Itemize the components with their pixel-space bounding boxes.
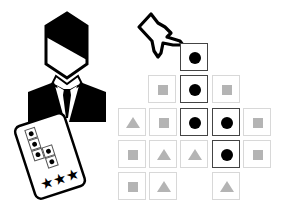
- square-icon: [128, 150, 138, 160]
- grid-cell-r4-c3[interactable]: [212, 172, 240, 200]
- grid-cell-r2-c2[interactable]: [180, 108, 208, 136]
- dot-icon: [189, 117, 201, 129]
- triangle-icon: [220, 181, 234, 192]
- square-icon: [253, 118, 263, 128]
- square-icon: [222, 85, 232, 95]
- grid-cell-r3-c1[interactable]: [149, 140, 177, 168]
- puzzle-illustration: ★★★: [0, 0, 287, 215]
- grid-cell-r4-c0[interactable]: [118, 172, 146, 200]
- square-icon: [158, 85, 168, 95]
- grid-cell-r4-c1[interactable]: [149, 172, 177, 200]
- grid-cell-r0-c2[interactable]: [180, 43, 208, 71]
- businessman-icon: [0, 0, 115, 125]
- grid-cell-r3-c2[interactable]: [180, 140, 208, 168]
- grid-cell-r2-c4[interactable]: [243, 108, 271, 136]
- square-icon: [253, 150, 263, 160]
- triangle-icon: [157, 149, 171, 160]
- dot-icon: [221, 149, 233, 161]
- grid-cell-r1-c2[interactable]: [180, 75, 208, 103]
- grid-cell-r3-c0[interactable]: [118, 140, 146, 168]
- dot-icon: [189, 52, 201, 64]
- dot-icon: [221, 117, 233, 129]
- square-icon: [128, 182, 138, 192]
- grid-cell-r3-c4[interactable]: [243, 140, 271, 168]
- triangle-icon: [126, 117, 140, 128]
- triangle-icon: [188, 149, 202, 160]
- grid-cell-r1-c1[interactable]: [148, 75, 176, 103]
- triangle-icon: [157, 181, 171, 192]
- grid-cell-r3-c3[interactable]: [212, 140, 240, 168]
- grid-cell-r2-c3[interactable]: [212, 108, 240, 136]
- square-icon: [159, 118, 169, 128]
- grid-cell-r1-c3[interactable]: [212, 75, 240, 103]
- pattern-card-icon: ★★★: [10, 108, 110, 208]
- grid-cell-r2-c0[interactable]: [118, 108, 146, 136]
- grid-cell-r2-c1[interactable]: [149, 108, 177, 136]
- dot-icon: [189, 84, 201, 96]
